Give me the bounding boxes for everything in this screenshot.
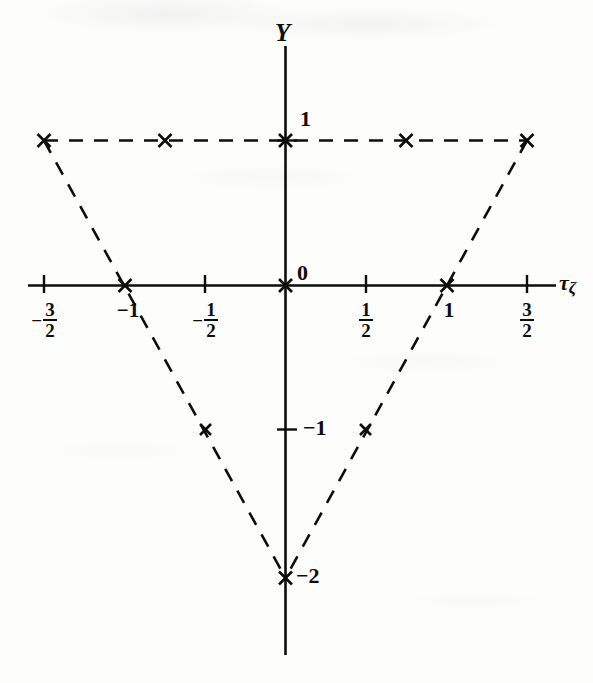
y-tick-label-0: 0	[297, 262, 308, 284]
x-tick-label-3/2: 3 2	[505, 300, 549, 341]
fraction-denominator: 2	[359, 321, 373, 340]
fraction-numerator: 1	[359, 300, 373, 321]
x-tick-label--3/2: − 3 2	[18, 300, 70, 341]
y-axis-title: Y	[275, 20, 290, 45]
x-axis-title-base: τ	[559, 270, 569, 295]
fraction-denominator: 2	[204, 321, 218, 340]
fraction-numerator: 3	[520, 300, 534, 321]
minus-sign: −	[192, 311, 203, 330]
x-tick-label-1: 1	[427, 300, 471, 321]
minus-sign: −	[31, 311, 42, 330]
x-axis-title: τζ	[559, 272, 576, 294]
x-tick-label--1: −1	[102, 300, 154, 321]
fraction-numerator: 3	[43, 300, 57, 321]
fraction-numerator: 1	[204, 300, 218, 321]
y-tick-label--2: −2	[296, 565, 320, 587]
dashed-left-edge	[44, 141, 286, 579]
fraction-denominator: 2	[520, 321, 534, 340]
y-tick-label--1: −1	[303, 417, 327, 439]
y-tick-label-1: 1	[300, 108, 311, 130]
x-tick-label-1/2: 1 2	[344, 300, 388, 341]
x-axis-title-subscript: ζ	[569, 278, 577, 297]
x-tick-label--1/2: − 1 2	[179, 300, 231, 341]
fraction-denominator: 2	[43, 321, 57, 340]
plot-figure: Y τζ 1 0 −1 −2 − 3 2 −1 − 1 2 1 2 1	[0, 0, 593, 683]
dashed-right-edge	[286, 141, 528, 579]
